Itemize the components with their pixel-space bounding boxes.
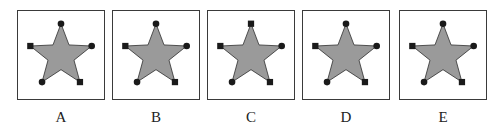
square-marker-icon-left	[217, 43, 223, 49]
square-marker-icon-top	[248, 21, 254, 27]
option-label-d: D	[302, 109, 390, 126]
square-marker-icon-lower-right	[77, 79, 83, 85]
star-figure	[18, 11, 104, 99]
circle-marker-icon-lower-left	[421, 79, 428, 86]
square-marker-icon-left	[122, 43, 128, 49]
circle-marker-icon-right	[183, 43, 190, 50]
circle-marker-icon-right	[470, 43, 477, 50]
square-marker-icon-left	[312, 43, 318, 49]
star-icon	[412, 24, 473, 82]
option-panel-e[interactable]	[399, 10, 487, 100]
option-label-b: B	[112, 109, 200, 126]
square-marker-icon-lower-right	[362, 79, 368, 85]
square-marker-icon-left	[409, 43, 415, 49]
circle-marker-icon-top	[58, 20, 65, 27]
circle-marker-icon-right	[88, 43, 95, 50]
option-label-a: A	[17, 109, 105, 126]
option-panel-c[interactable]	[207, 10, 295, 100]
circle-marker-icon-top	[343, 20, 350, 27]
option-panel-d[interactable]	[302, 10, 390, 100]
star-icon	[125, 24, 186, 82]
circle-marker-icon-lower-left	[134, 79, 141, 86]
circle-marker-icon-lower-left	[324, 79, 331, 86]
circle-marker-icon-top	[153, 20, 160, 27]
circle-marker-icon-right	[373, 43, 380, 50]
option-label-c: C	[207, 109, 295, 126]
star-figure	[113, 11, 199, 99]
square-marker-icon-lower-right	[172, 79, 178, 85]
square-marker-icon-lower-right	[459, 79, 465, 85]
star-icon	[315, 24, 376, 82]
option-panel-b[interactable]	[112, 10, 200, 100]
star-figure	[208, 11, 294, 99]
star-icon	[30, 24, 91, 82]
square-marker-icon-lower-right	[267, 79, 273, 85]
circle-marker-icon-lower-left	[229, 79, 236, 86]
square-marker-icon-left	[27, 43, 33, 49]
star-figure	[303, 11, 389, 99]
star-figure	[400, 11, 486, 99]
option-label-e: E	[399, 109, 487, 126]
star-icon	[220, 24, 281, 82]
circle-marker-icon-right	[278, 43, 285, 50]
circle-marker-icon-top	[440, 20, 447, 27]
circle-marker-icon-lower-left	[39, 79, 46, 86]
option-panel-a[interactable]	[17, 10, 105, 100]
